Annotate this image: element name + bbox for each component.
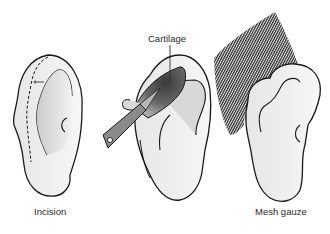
ear-outline [246, 64, 321, 201]
incision-ear [13, 55, 82, 196]
label-incision: Incision [34, 206, 66, 217]
label-cartilage: Cartilage [148, 33, 186, 44]
cartilage-ear [103, 45, 211, 200]
mesh-gauze-ear [214, 12, 320, 201]
label-mesh-gauze: Mesh gauze [255, 206, 307, 217]
